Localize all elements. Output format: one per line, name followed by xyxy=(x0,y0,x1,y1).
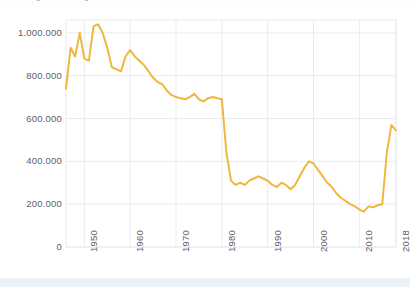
y-tick-label: 800.000 xyxy=(26,70,62,81)
bottom-accent-strip xyxy=(0,278,410,287)
x-tick-label: 1980 xyxy=(226,230,237,252)
y-tick-label: 200.000 xyxy=(26,198,62,209)
chart-figure: Abbildung: Entwicklung der Zahl der Gebu… xyxy=(0,0,410,287)
x-tick-label: 2000 xyxy=(318,230,329,252)
x-tick-label: 2018 xyxy=(400,230,410,252)
y-tick-label: 0 xyxy=(57,241,62,252)
x-tick-label: 1950 xyxy=(88,230,99,252)
x-tick-label: 1990 xyxy=(272,230,283,252)
y-tick-label: 600.000 xyxy=(26,113,62,124)
y-tick-label: 400.000 xyxy=(26,155,62,166)
x-tick-label: 2010 xyxy=(363,230,374,252)
y-tick-label: 1.000.000 xyxy=(18,27,62,38)
x-tick-label: 1970 xyxy=(180,230,191,252)
x-tick-label: 1960 xyxy=(134,230,145,252)
